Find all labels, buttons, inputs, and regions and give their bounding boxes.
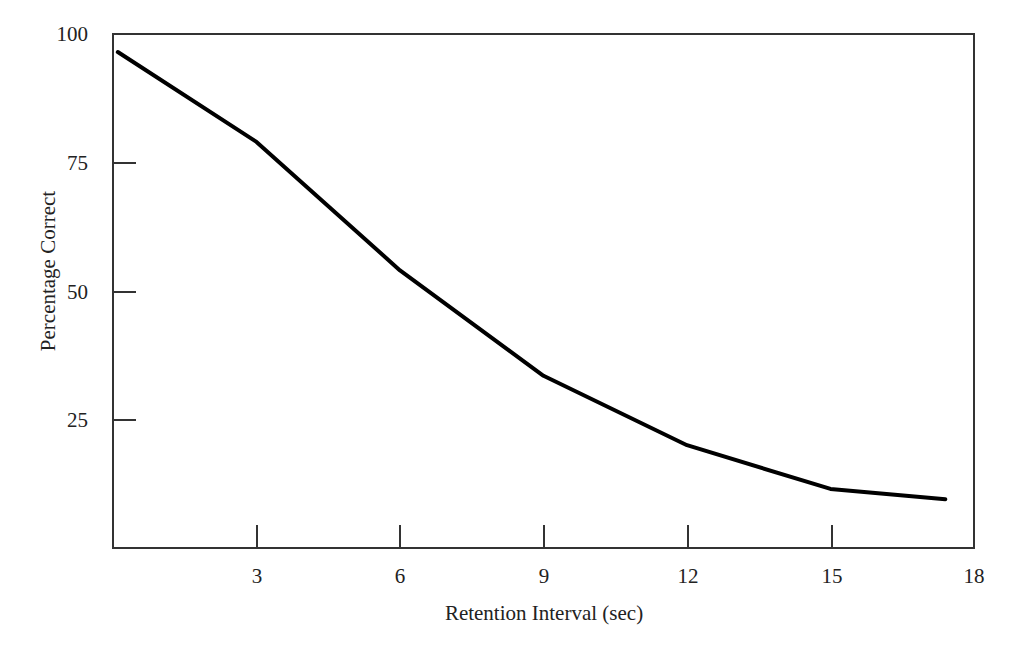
chart-figure: 100 75 50 25 3 6 9 12 15 18 Percentage C… bbox=[0, 0, 1011, 650]
plot-frame bbox=[113, 34, 974, 548]
plot-area bbox=[0, 0, 1011, 650]
x-axis-title: Retention Interval (sec) bbox=[113, 603, 975, 624]
data-series-line bbox=[118, 52, 946, 499]
y-axis-ticks bbox=[113, 163, 136, 420]
x-tick-label-15: 15 bbox=[822, 566, 843, 587]
x-tick-label-18: 18 bbox=[964, 566, 985, 587]
x-tick-label-12: 12 bbox=[678, 566, 699, 587]
x-tick-label-9: 9 bbox=[539, 566, 550, 587]
x-axis-ticks bbox=[257, 525, 832, 548]
x-tick-label-6: 6 bbox=[395, 566, 406, 587]
y-axis-title: Percentage Correct bbox=[38, 61, 59, 481]
y-tick-label-100: 100 bbox=[16, 24, 88, 45]
x-tick-label-3: 3 bbox=[252, 566, 263, 587]
